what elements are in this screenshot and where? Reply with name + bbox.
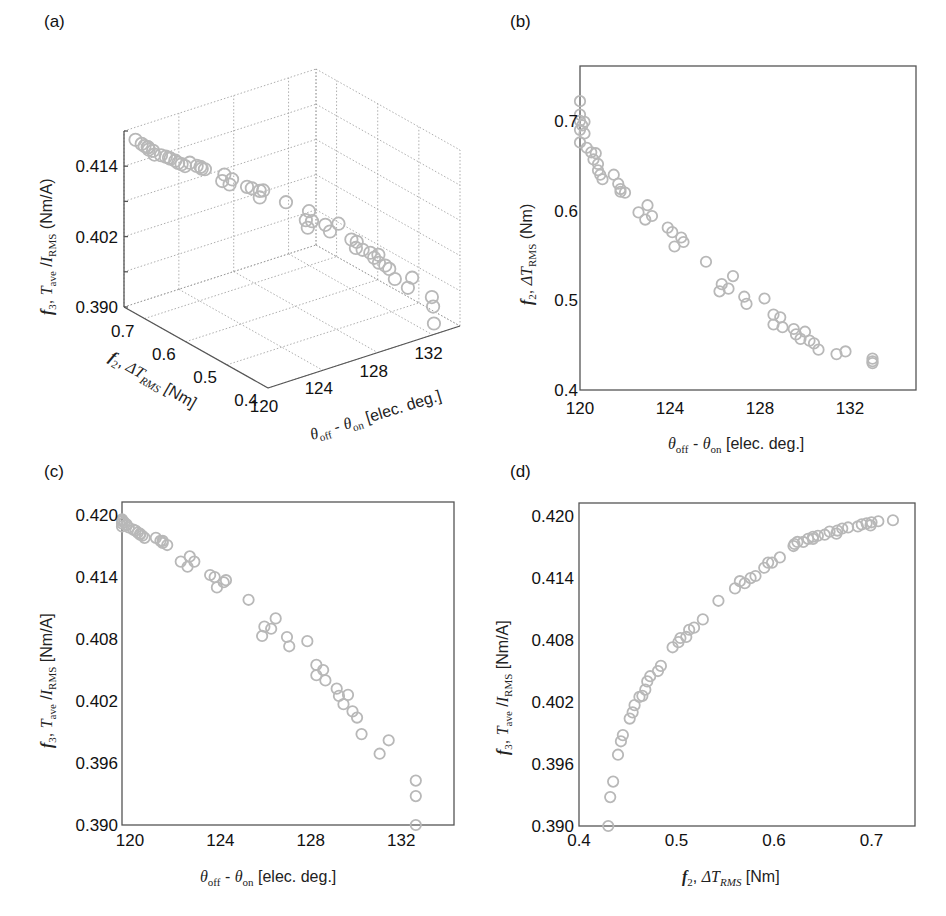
data-point-marker <box>888 515 898 525</box>
tick-label: 0.390 <box>531 817 574 836</box>
tick-label: 0.402 <box>531 693 574 712</box>
chart-d-scatter: 0.40.50.60.70.3900.3960.4020.4080.4140.4… <box>0 0 946 916</box>
data-point-marker <box>713 596 723 606</box>
data-point-marker <box>627 707 637 717</box>
data-point-marker <box>605 792 615 802</box>
data-point-marker <box>608 776 618 786</box>
chart-d-tick-labels: 0.40.50.60.70.3900.3960.4020.4080.4140.4… <box>531 507 883 850</box>
tick-label: 0.6 <box>762 831 786 850</box>
chart-d-ylabel: f3, Tave /IRMS [Nm/A] <box>494 620 514 755</box>
data-point-marker <box>613 750 623 760</box>
tick-label: 0.408 <box>531 631 574 650</box>
tick-label: 0.5 <box>665 831 689 850</box>
tick-label: 0.420 <box>531 507 574 526</box>
data-point-marker <box>618 730 628 740</box>
data-point-marker <box>616 736 626 746</box>
data-point-marker <box>698 614 708 624</box>
data-point-marker <box>775 552 785 562</box>
tick-label: 0.396 <box>531 755 574 774</box>
tick-label: 0.7 <box>860 831 884 850</box>
data-point-marker <box>625 713 635 723</box>
chart-d-frame <box>579 503 915 826</box>
tick-label: 0.414 <box>531 569 574 588</box>
chart-d-xlabel: f2, ΔTRMS [Nm] <box>682 868 780 888</box>
chart-d-svg: 0.40.50.60.70.3900.3960.4020.4080.4140.4… <box>0 0 946 916</box>
chart-d-points <box>603 515 898 831</box>
data-point-marker <box>629 700 639 710</box>
